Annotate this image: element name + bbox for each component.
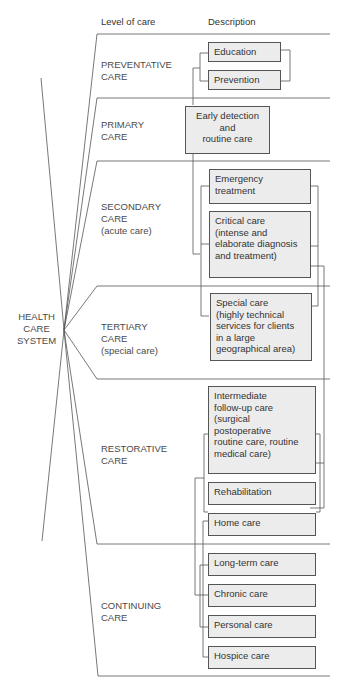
- desc-home-care: Home care: [208, 513, 316, 536]
- desc-personal-care: Personal care: [208, 615, 316, 638]
- header-description: Description: [208, 16, 256, 27]
- level-primary: PRIMARY CARE: [101, 119, 144, 143]
- level-continuing: CONTINUING CARE: [101, 600, 161, 624]
- level-restorative: RESTORATIVE CARE: [101, 443, 167, 467]
- fan-line-outer-top: [41, 78, 64, 330]
- desc-early-detection: Early detection and routine care: [185, 106, 270, 154]
- desc-intermediate: Intermediate follow-up care (surgical po…: [208, 386, 316, 474]
- desc-chronic-care: Chronic care: [208, 584, 316, 607]
- header-level-of-care: Level of care: [101, 16, 155, 27]
- desc-special-care: Special care (highly technical services …: [210, 293, 312, 361]
- fan-line-outer-bottom: [42, 330, 64, 541]
- level-preventative: PREVENTATIVE CARE: [101, 59, 172, 83]
- health-care-system-label: HEALTH CARE SYSTEM: [17, 311, 56, 347]
- desc-critical-care: Critical care (intense and elaborate dia…: [209, 211, 311, 278]
- desc-long-term-care: Long-term care: [208, 553, 316, 576]
- desc-hospice-care: Hospice care: [208, 646, 316, 669]
- desc-prevention: Prevention: [208, 70, 281, 90]
- desc-education: Education: [208, 42, 281, 62]
- desc-rehabilitation: Rehabilitation: [208, 482, 316, 505]
- level-tertiary: TERTIARY CARE (special care): [101, 321, 158, 357]
- level-secondary: SECONDARY CARE (acute care): [101, 201, 161, 237]
- desc-emergency: Emergency treatment: [209, 169, 311, 204]
